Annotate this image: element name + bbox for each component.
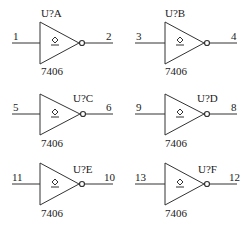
open-collector-icon [51,109,59,117]
ref-designator: U?A [41,8,62,19]
part-number: 7406 [165,66,187,77]
inverter-gate-a: U?A 1 2 7406 [0,0,125,77]
open-collector-icon [176,179,184,187]
open-collector-icon [176,37,184,45]
input-pin-number: 11 [12,172,23,183]
inverter-gate-b: U?B 3 4 7406 [125,0,250,77]
ref-designator: U?C [73,93,93,104]
output-pin-number: 12 [229,172,240,183]
ref-designator: U?E [73,164,93,175]
inverter-gate-f: U?F 13 12 7406 [125,154,250,231]
part-number: 7406 [165,208,187,219]
output-pin-number: 10 [104,172,115,183]
inverter-symbol-icon [125,77,251,154]
part-number: 7406 [41,66,63,77]
part-number: 7406 [41,138,63,149]
part-number: 7406 [165,138,187,149]
output-pin-number: 2 [106,31,112,42]
output-pin-number: 6 [106,102,112,113]
open-collector-icon [51,37,59,45]
inverter-symbol-icon [0,154,125,231]
output-pin-number: 4 [231,31,237,42]
inverter-symbol-icon [125,154,251,231]
ref-designator: U?D [197,93,218,104]
input-pin-number: 3 [136,31,142,42]
inverter-gate-e: U?E 11 10 7406 [0,154,125,231]
input-pin-number: 9 [136,102,142,113]
open-collector-icon [176,109,184,117]
open-collector-icon [51,179,59,187]
input-pin-number: 5 [13,102,19,113]
input-pin-number: 13 [135,172,146,183]
input-pin-number: 1 [13,31,19,42]
ref-designator: U?F [198,164,217,175]
ref-designator: U?B [165,8,185,19]
inverter-gate-d: U?D 9 8 7406 [125,77,250,154]
part-number: 7406 [41,208,63,219]
inverter-gate-c: U?C 5 6 7406 [0,77,125,154]
output-pin-number: 8 [231,102,237,113]
